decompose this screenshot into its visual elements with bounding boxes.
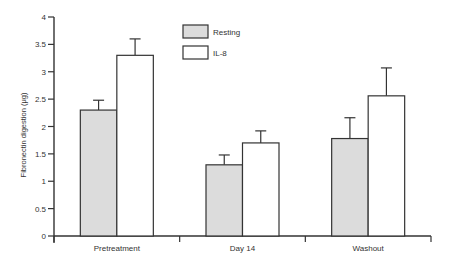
bar-resting: [206, 165, 243, 236]
y-tick-label: 2: [42, 123, 47, 132]
legend-label: Resting: [213, 28, 240, 37]
y-tick-label: 2.5: [35, 95, 47, 104]
legend-swatch: [183, 25, 208, 38]
y-axis: 00.511.522.533.54: [35, 13, 54, 243]
legend-swatch: [183, 46, 208, 59]
y-tick-label: 0.5: [35, 205, 47, 214]
bar-chart: 00.511.522.533.54 PretreatmentDay 14Wash…: [0, 0, 449, 265]
y-tick-label: 3.5: [35, 40, 47, 49]
bar-resting: [332, 139, 369, 236]
y-tick-label: 0: [42, 232, 47, 241]
y-tick-label: 1.5: [35, 150, 47, 159]
legend: RestingIL-8: [183, 25, 240, 59]
bar-il-8: [117, 55, 154, 236]
y-tick-label: 1: [42, 177, 47, 186]
bar-il-8: [243, 143, 280, 236]
y-axis-title: Fibronectin digestion (μg): [19, 92, 28, 177]
x-axis: PretreatmentDay 14Washout: [54, 236, 431, 253]
bars: [80, 39, 404, 236]
y-tick-label: 4: [42, 13, 47, 22]
legend-label: IL-8: [213, 49, 227, 58]
x-category-label: Day 14: [230, 244, 256, 253]
x-category-label: Pretreatment: [94, 244, 141, 253]
y-tick-label: 3: [42, 68, 47, 77]
bar-resting: [80, 110, 117, 236]
x-category-label: Washout: [353, 244, 385, 253]
bar-il-8: [368, 96, 405, 236]
